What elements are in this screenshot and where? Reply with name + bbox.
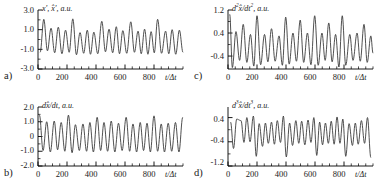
- panel-b-xtick-0: 0: [30, 169, 46, 179]
- panel-a-xtick-3: 600: [108, 72, 132, 82]
- panel-d-letter: d): [194, 167, 203, 178]
- panel-d-ytick-1: -0.4: [194, 135, 224, 145]
- panel-c-xticks: [228, 65, 373, 70]
- panel-d-xtick-2: 400: [269, 169, 293, 179]
- panel-d-xtick-0: 0: [220, 169, 236, 179]
- panel-c-xtick-4: 800: [327, 72, 351, 82]
- panel-d-yticks: [228, 118, 233, 166]
- panel-c-ytick-2: -0.4: [194, 51, 224, 61]
- panel-d: d3x̂/dt3, a.u. 0.4 -0.4 -1.2 0 200 400 6…: [190, 97, 379, 194]
- panel-c-letter: c): [194, 70, 202, 81]
- panel-c-xlabel: t/Δt: [355, 73, 366, 82]
- panel-c-ytick-1: 0.4: [196, 28, 224, 38]
- figure-derivatives-grid: x', x̂', a.u. 3.0 1.0 -1.0 -3.0 0 200 40…: [0, 0, 379, 195]
- panel-a-ytick-2: -1.0: [4, 44, 34, 54]
- panel-a-xtick-0: 0: [30, 72, 46, 82]
- panel-c-xtick-0: 0: [220, 72, 236, 82]
- panel-a-xtick-1: 200: [50, 72, 74, 82]
- panel-c-xtick-2: 400: [269, 72, 293, 82]
- panel-a-curve: [40, 19, 183, 55]
- panel-d-xtick-3: 600: [298, 169, 322, 179]
- panel-d-xtick-1: 200: [240, 169, 264, 179]
- panel-d-ytick-0: 0.4: [196, 114, 224, 124]
- panel-c-ytick-0: 1.2: [196, 5, 224, 15]
- panel-a-xtick-4: 800: [137, 72, 161, 82]
- panel-b-ytick-2: 0: [6, 131, 34, 141]
- panel-a-xtick-2: 400: [79, 72, 103, 82]
- panel-a-xticks: [38, 65, 183, 70]
- panel-d-xlabel: t/Δt: [355, 170, 366, 179]
- panel-c-xtick-1: 200: [240, 72, 264, 82]
- panel-a-letter: a): [4, 70, 12, 81]
- panel-b: dx̂/dt, a.u. 2.0 1.0 0 -1.0 -2.0 0 200 4…: [0, 97, 189, 194]
- panel-d-xtick-4: 800: [327, 169, 351, 179]
- panel-b-xtick-3: 600: [108, 169, 132, 179]
- panel-d-plot: [190, 97, 379, 194]
- panel-a-ytick-1: 1.0: [6, 24, 34, 34]
- panel-d-curve: [231, 116, 371, 157]
- panel-b-ytick-3: -1.0: [4, 145, 34, 155]
- panel-c-xtick-3: 600: [298, 72, 322, 82]
- panel-b-ytick-1: 1.0: [6, 116, 34, 126]
- panel-a-xlabel: t/Δt: [165, 73, 176, 82]
- panel-b-ytick-0: 2.0: [6, 102, 34, 112]
- panel-b-letter: b): [4, 167, 13, 178]
- panel-c: d2x̂/dt2, a.u. 1.2 0.4 -0.4 0 200 400 60…: [190, 0, 379, 97]
- panel-a-ytick-0: 3.0: [6, 5, 34, 15]
- panel-b-curve: [39, 115, 182, 153]
- panel-c-curve: [230, 14, 373, 67]
- panel-b-xtick-2: 400: [79, 169, 103, 179]
- panel-b-xlabel: t/Δt: [165, 170, 176, 179]
- panel-b-xticks: [38, 162, 183, 167]
- panel-b-xtick-4: 800: [137, 169, 161, 179]
- panel-d-xticks: [228, 162, 373, 167]
- panel-d-ytick-2: -1.2: [194, 157, 224, 167]
- panel-b-xtick-1: 200: [50, 169, 74, 179]
- panel-a: x', x̂', a.u. 3.0 1.0 -1.0 -3.0 0 200 40…: [0, 0, 189, 97]
